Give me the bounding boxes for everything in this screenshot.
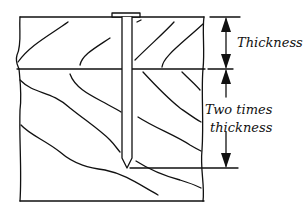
top-board-right-edge [203,17,204,69]
wood-grain [143,72,201,122]
wood-grain [182,72,200,90]
wood-grain [137,20,141,22]
nail-shank [122,17,132,168]
arrow-down-icon [221,54,231,69]
wood-grain [138,117,201,151]
thickness-label: Thickness [237,36,303,49]
wood-grain [136,161,201,188]
nail-head [112,13,140,17]
arrow-up-icon [221,17,231,32]
two-times-label: Two times [205,103,272,116]
wood-grain [70,74,121,112]
arrow-down-icon [221,153,231,168]
wood-grain [20,80,120,152]
wood-grain [18,22,68,62]
wood-grain [21,125,158,195]
bottom-board [19,69,204,201]
wood-grain [162,24,203,67]
two-times-thickness-label: thickness [210,121,272,134]
bottom-board-right-edge [202,69,204,201]
arrow-up-icon [221,69,231,84]
bottom-board-left-edge [19,69,21,201]
wood-grain [135,22,174,60]
nail [112,13,140,168]
top-board [16,17,205,69]
wood-grain [80,38,110,65]
